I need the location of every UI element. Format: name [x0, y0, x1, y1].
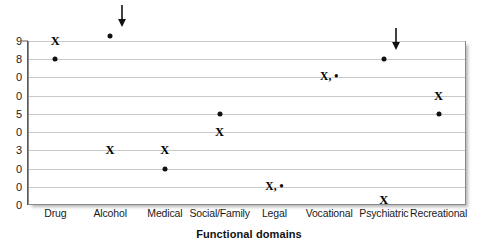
data-point-dot: [381, 57, 386, 62]
gridline: [29, 114, 465, 115]
arrow-down-icon: [117, 5, 128, 31]
data-point-overlap: X, •: [320, 72, 338, 84]
y-axis-tick-label: 0: [16, 126, 22, 138]
data-point-dot: [436, 111, 441, 116]
gridline: [29, 132, 465, 133]
gridline: [29, 59, 465, 60]
data-point-dot: [162, 166, 167, 171]
y-axis-tick-label: 0: [16, 71, 22, 83]
x-axis-tick-label: Drug: [44, 207, 66, 219]
y-axis: 9800503000: [0, 41, 26, 205]
gridline: [29, 169, 465, 170]
y-axis-tick-label: 0: [16, 90, 22, 102]
gridline: [29, 77, 465, 78]
data-point-overlap: X, •: [265, 181, 283, 193]
y-axis-tick-label: 0: [16, 163, 22, 175]
x-axis-title: Functional domains: [0, 228, 498, 240]
data-point-x: X: [160, 144, 169, 157]
gridline: [29, 96, 465, 97]
gridline: [29, 150, 465, 151]
y-axis-tick-label: 0: [16, 181, 22, 193]
x-axis: DrugAlcoholMedicalSocial/FamilyLegalVoca…: [0, 207, 498, 223]
data-point-dot: [53, 57, 58, 62]
scatter-chart-figure: 9800503000 DrugAlcoholMedicalSocial/Fami…: [0, 0, 498, 249]
data-point-x: X: [51, 35, 60, 48]
gridline: [29, 187, 465, 188]
y-axis-tick-label: 8: [16, 53, 22, 65]
data-point-dot: [108, 33, 113, 38]
x-axis-tick-label: Vocational: [306, 207, 353, 219]
x-axis-tick-label: Medical: [147, 207, 182, 219]
y-axis-tick-label: 5: [16, 108, 22, 120]
data-point-x: X: [106, 144, 115, 157]
y-axis-tick-label: 3: [16, 144, 22, 156]
x-axis-tick-label: Social/Family: [189, 207, 249, 219]
data-point-x: X: [215, 126, 224, 139]
x-axis-tick-label: Legal: [262, 207, 287, 219]
data-point-x: X: [379, 194, 388, 207]
plot-area: [28, 41, 466, 205]
x-axis-tick-label: Psychiatric: [359, 207, 408, 219]
data-point-x: X: [434, 89, 443, 102]
data-point-dot: [217, 111, 222, 116]
arrow-down-icon: [390, 28, 401, 54]
x-axis-tick-label: Recreational: [410, 207, 467, 219]
x-axis-tick-label: Alcohol: [93, 207, 126, 219]
